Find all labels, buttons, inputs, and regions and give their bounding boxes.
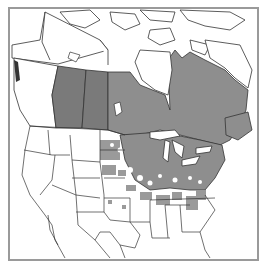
range-map [0,0,267,269]
saskatchewan-range [82,70,108,130]
alberta-range [52,66,86,128]
